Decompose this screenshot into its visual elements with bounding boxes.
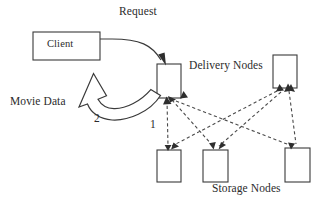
link-deliveryright-storage3 xyxy=(289,91,296,144)
label-delivery-nodes: Delivery Nodes xyxy=(189,60,263,72)
label-movie-data: Movie Data xyxy=(10,96,66,108)
storage-node-3[interactable] xyxy=(285,148,310,182)
label-client: Client xyxy=(47,39,73,50)
storage-node-1[interactable] xyxy=(157,150,181,182)
movie-data-hollow-arrow xyxy=(79,74,161,121)
request-arrow-path xyxy=(100,39,161,60)
link-deliveryright-storage1 xyxy=(172,91,277,146)
label-step-two: 2 xyxy=(94,113,100,125)
storage-node-2[interactable] xyxy=(203,150,228,182)
label-step-one: 1 xyxy=(150,119,156,131)
delivery-node-left[interactable] xyxy=(157,64,181,98)
label-storage-nodes: Storage Nodes xyxy=(212,183,281,195)
link-deliveryright-storage2 xyxy=(219,92,281,146)
arrowhead-storage2-topleft xyxy=(209,142,216,150)
label-request: Request xyxy=(119,6,157,18)
diagram-canvas: Request Client Delivery Nodes Movie Data… xyxy=(0,0,324,202)
link-deliveryleft-storage1 xyxy=(167,100,168,146)
delivery-node-right[interactable] xyxy=(273,55,297,88)
